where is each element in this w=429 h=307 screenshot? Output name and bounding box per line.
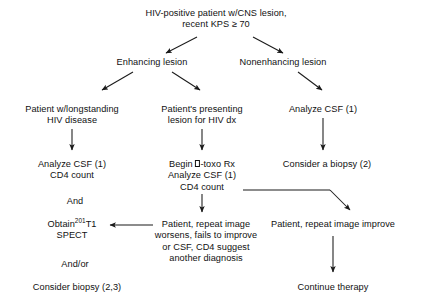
node-text-line: Patient w/longstanding [25,104,119,115]
node-text-line: Nonenhancing lesion [240,57,327,68]
connector-root-split-right [253,37,283,53]
node-text-line: recent KPS ≥ 70 [145,19,286,30]
node-text-line: SPECT [47,230,96,241]
node-text-line: Enhancing lesion [117,57,188,68]
node-text-line: And [67,196,84,207]
connector-enhancing-split-left [102,72,133,90]
flowchart-node-enhancing: Enhancing lesion [117,57,188,68]
node-text-line: Continue therapy [298,282,369,293]
flowchart-node-begin-toxo: Begin -toxo RxAnalyze CSF (1)CD4 count [168,159,236,193]
flowchart-node-consider-biopsy-2: Consider a biopsy (2) [283,159,371,170]
node-text-line: Analyze CSF (1) [168,170,236,181]
connector-nonenhancing-down [298,72,322,90]
node-text-line: Begin -toxo Rx [168,159,236,170]
node-text-line: HIV disease [25,115,119,126]
node-text-line: HIV-positive patient w/CNS lesion, [145,8,286,19]
node-text-line: another diagnosis [155,253,257,264]
node-text-line: lesion for HIV dx [161,115,242,126]
flowchart-node-analyze-csf-right: Analyze CSF (1) [289,104,357,115]
flowchart-node-and: And [67,196,84,207]
node-text-line: CD4 count [38,170,106,181]
node-text-line: Consider a biopsy (2) [283,159,371,170]
node-text-line: or CSF, CD4 suggest [155,242,257,253]
node-text-line: Patient, repeat image [155,219,257,230]
node-text-line: Patient's presenting [161,104,242,115]
connector-elbow-diagonal [330,190,350,210]
flowchart-node-consider-biopsy-23: Consider biopsy (2,3) [33,282,121,293]
node-text-line: Analyze CSF (1) [38,159,106,170]
node-text-line: Patient, repeat image improve [271,219,395,230]
node-text-line: worsens, fails to improve [155,230,257,241]
connector-enhancing-split-right [172,72,200,90]
flowchart-node-repeat-worsens: Patient, repeat imageworsens, fails to i… [155,219,257,265]
flowchart-node-nonenhancing: Nonenhancing lesion [240,57,327,68]
connector-root-split-left [166,37,197,53]
flowchart-node-root: HIV-positive patient w/CNS lesion,recent… [145,8,286,31]
flowchart-node-continue-therapy: Continue therapy [298,282,369,293]
node-text-line: Analyze CSF (1) [289,104,357,115]
node-text-line: Obtain201T1 [47,219,96,230]
flowchart-canvas: HIV-positive patient w/CNS lesion,recent… [0,0,429,307]
node-text-line: Consider biopsy (2,3) [33,282,121,293]
flowchart-node-presenting: Patient's presentinglesion for HIV dx [161,104,242,127]
node-text-line: CD4 count [168,182,236,193]
flowchart-node-and-or: And/or [61,259,88,270]
flowchart-node-obtain-spect: Obtain201T1SPECT [47,219,96,242]
flowchart-node-repeat-improve: Patient, repeat image improve [271,219,395,230]
node-text-line: And/or [61,259,88,270]
flowchart-node-analyze-csf-left: Analyze CSF (1)CD4 count [38,159,106,182]
flowchart-node-longstanding: Patient w/longstandingHIV disease [25,104,119,127]
missing-glyph-box-icon [195,160,200,167]
